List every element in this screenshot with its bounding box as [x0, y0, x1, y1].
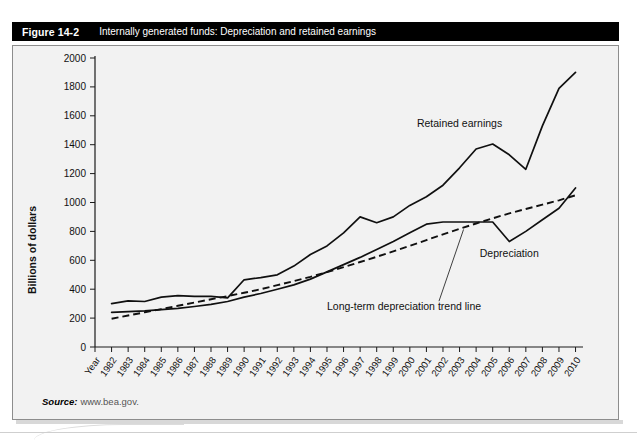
annotation-label: Long-term depreciation trend line	[327, 300, 481, 312]
y-axis: 0200400600800100012001400160018002000	[64, 53, 95, 353]
x-tick-label: 2004	[462, 355, 483, 379]
chart-plot: 0200400600800100012001400160018002000 Ye…	[12, 45, 619, 420]
y-tick-label: 1400	[64, 139, 87, 150]
x-tick-label: 2010	[562, 355, 583, 379]
x-tick-label: 2002	[429, 355, 450, 379]
x-tick-label: 1985	[147, 355, 168, 379]
x-tick-label: 2000	[396, 355, 417, 379]
chart-series-group	[112, 72, 576, 318]
y-tick-label: 800	[69, 226, 86, 237]
y-tick-label: 1000	[64, 197, 87, 208]
y-tick-label: 1800	[64, 81, 87, 92]
decorative-arc	[34, 424, 184, 444]
x-tick-label: 1995	[313, 355, 334, 379]
source-label: Source:	[42, 396, 77, 407]
x-tick-label: 1999	[379, 355, 400, 379]
source-row: Source:www.bea.gov.	[42, 396, 139, 407]
figure-number: Figure 14-2	[22, 26, 79, 38]
annotation-label: Depreciation	[480, 247, 539, 259]
x-tick-label: 1996	[330, 355, 351, 379]
x-tick-label: 1989	[214, 355, 235, 379]
y-axis-title: Billions of dollars	[26, 206, 38, 294]
x-tick-label: 2009	[545, 355, 566, 379]
y-tick-label: 2000	[64, 53, 87, 64]
figure-header-bar: Figure 14-2 Internally generated funds: …	[12, 22, 619, 41]
x-tick-label: 1990	[230, 355, 251, 379]
x-tick-label: 1993	[280, 355, 301, 379]
annotation-label: Retained earnings	[417, 117, 502, 129]
y-tick-label: 1600	[64, 110, 87, 121]
x-tick-label: 2007	[512, 355, 533, 379]
figure-caption: Internally generated funds: Depreciation…	[99, 26, 376, 37]
x-tick-label: 1986	[164, 355, 185, 379]
page-rule	[0, 432, 637, 433]
x-tick-label: 2008	[528, 355, 549, 379]
y-tick-label: 400	[69, 284, 86, 295]
y-tick-label: 0	[80, 342, 86, 353]
x-tick-label: 1982	[98, 355, 119, 379]
x-tick-label: 1983	[114, 355, 135, 379]
series-retained-earnings	[112, 72, 576, 303]
x-tick-label: 1991	[247, 355, 268, 379]
x-tick-label: 2006	[495, 355, 516, 379]
x-tick-label: 1994	[296, 355, 317, 379]
x-tick-label: 1984	[131, 355, 152, 379]
x-tick-label: 2003	[446, 355, 467, 379]
y-tick-label: 600	[69, 255, 86, 266]
x-tick-label: 1988	[197, 355, 218, 379]
x-tick-label: 1992	[263, 355, 284, 379]
x-axis: Year198219831984198519861987198819891990…	[82, 347, 583, 378]
x-tick-label: 1997	[346, 355, 367, 379]
x-tick-label: 2001	[412, 355, 433, 379]
x-tick-label: 1987	[180, 355, 201, 379]
x-tick-label: 1998	[363, 355, 384, 379]
x-tick-label: 2005	[479, 355, 500, 379]
source-url: www.bea.gov.	[80, 396, 138, 407]
y-tick-label: 200	[69, 313, 86, 324]
y-tick-label: 1200	[64, 168, 87, 179]
